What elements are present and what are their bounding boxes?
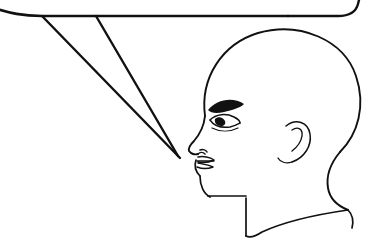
drawing-canvas: Black ink line drawing of a bald human h… [0,0,382,241]
canvas-background [0,0,382,241]
line-drawing-artboard [0,0,382,241]
